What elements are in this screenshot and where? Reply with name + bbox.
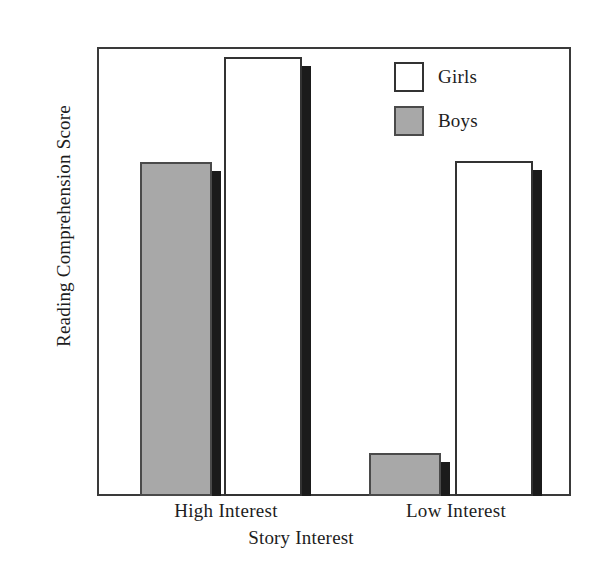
bar-chart-figure: Reading Comprehension Score 11 9 7 5 Hig…: [0, 0, 602, 562]
bar-high-interest-boys: [140, 162, 212, 496]
white-square-icon: [394, 62, 424, 92]
bar-low-interest-girls: [455, 161, 533, 496]
bar-high-interest-girls: [224, 57, 302, 496]
bar-low-interest-boys: [369, 453, 441, 496]
legend-label-boys: Boys: [438, 110, 478, 132]
legend-item-girls: Girls: [394, 62, 554, 92]
bar-shadow-low-boys: [441, 462, 450, 496]
gray-square-icon: [394, 106, 424, 136]
y-axis-title: Reading Comprehension Score: [53, 76, 75, 376]
x-axis-title: Story Interest: [0, 527, 602, 549]
bar-shadow-high-girls: [302, 66, 311, 496]
x-tick-label-high-interest: High Interest: [126, 500, 326, 522]
bar-shadow-low-girls: [533, 170, 542, 496]
legend-item-boys: Boys: [394, 106, 554, 136]
bar-shadow-high-boys: [212, 171, 221, 496]
legend-label-girls: Girls: [438, 66, 477, 88]
x-tick-label-low-interest: Low Interest: [356, 500, 556, 522]
legend: Girls Boys: [394, 62, 554, 150]
